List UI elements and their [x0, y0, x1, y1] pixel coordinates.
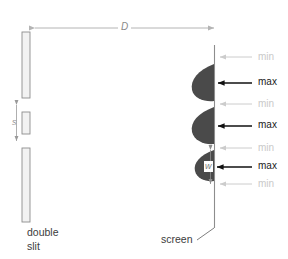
double-slit-barrier — [22, 32, 30, 222]
double-slit-diagram — [0, 0, 288, 259]
caption-screen: screen — [161, 233, 193, 245]
fringe-label-max-1: max — [258, 76, 277, 88]
fringe-label-min-1: min — [258, 51, 274, 63]
fringe-label-min-2: min — [258, 98, 274, 110]
screen-caption-leader — [197, 228, 214, 240]
fringe-label-max-2: max — [258, 119, 277, 131]
fringe-label-min-3: min — [258, 142, 274, 154]
caption-double: double — [27, 226, 59, 238]
diagram-canvas: D s w min max min max min max min double… — [0, 0, 288, 259]
distance-label-D: D — [118, 21, 131, 33]
fringe-pointer-arrows — [217, 57, 252, 184]
fringe-label-min-4: min — [258, 178, 274, 190]
caption-slit: slit — [27, 240, 40, 252]
slit-separation-label-s: s — [12, 117, 17, 128]
fringe-width-label-w: w — [204, 161, 213, 172]
fringe-label-max-3: max — [258, 160, 277, 172]
